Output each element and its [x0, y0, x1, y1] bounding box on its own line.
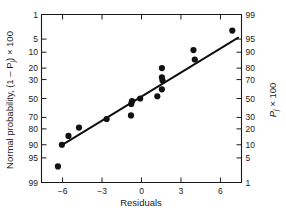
data-point [159, 65, 165, 71]
data-point [154, 93, 160, 99]
left-tick-label: 5 [33, 34, 38, 44]
left-tick-label: 50 [29, 94, 39, 104]
data-points [55, 27, 236, 169]
right-axis-tick-labels: 99959080705030201051 [246, 10, 256, 188]
right-tick-label: 30 [246, 112, 256, 122]
data-point [104, 116, 110, 122]
right-tick-label: 95 [246, 34, 256, 44]
data-point [137, 95, 143, 101]
left-tick-label: 80 [29, 124, 39, 134]
x-tick-label: 0 [139, 186, 144, 196]
data-point [159, 77, 165, 83]
fit-line [61, 38, 239, 146]
left-axis-tick-labels: 15102030507080909599 [29, 10, 39, 188]
data-point [59, 142, 65, 148]
data-point [129, 98, 135, 104]
right-tick-label: 50 [246, 94, 256, 104]
data-point [190, 47, 196, 53]
right-tick-label: 20 [246, 124, 256, 134]
data-point [229, 27, 235, 33]
left-tick-label: 99 [29, 178, 39, 188]
left-tick-label: 70 [29, 112, 39, 122]
left-tick-label: 10 [29, 47, 39, 57]
x-axis-title: Residuals [120, 197, 162, 208]
data-point [192, 56, 198, 62]
right-axis-ticks [237, 15, 242, 183]
right-tick-label: 70 [246, 75, 256, 85]
right-tick-label: 90 [246, 47, 256, 57]
data-point [65, 133, 71, 139]
x-tick-label: −6 [58, 186, 68, 196]
left-tick-label: 20 [29, 63, 39, 73]
x-tick-label: 3 [179, 186, 184, 196]
data-point [159, 86, 165, 92]
right-tick-label: 1 [246, 178, 251, 188]
x-axis-tick-labels: −6−3036 [58, 186, 223, 196]
right-tick-label: 10 [246, 140, 256, 150]
left-tick-label: 1 [33, 10, 38, 20]
left-axis-title: Normal probability, (1 – Pj) × 100 [4, 31, 17, 169]
x-tick-label: 6 [218, 186, 223, 196]
right-tick-label: 99 [246, 10, 256, 20]
right-tick-label: 80 [246, 63, 256, 73]
left-tick-label: 95 [29, 153, 39, 163]
x-tick-label: −3 [97, 186, 107, 196]
normal-probability-plot-figure: 15102030507080909599 9995908070503020105… [0, 0, 286, 213]
chart-canvas: 15102030507080909599 9995908070503020105… [0, 0, 286, 213]
svg-text:Pj × 100: Pj × 100 [267, 83, 280, 118]
data-point [128, 112, 134, 118]
left-tick-label: 90 [29, 140, 39, 150]
right-tick-label: 5 [246, 153, 251, 163]
left-axis-ticks [42, 15, 47, 183]
data-point [76, 125, 82, 131]
svg-text:Normal probability, (1 – Pj) ×: Normal probability, (1 – Pj) × 100 [4, 31, 17, 169]
right-axis-title: Pj × 100 [267, 83, 280, 118]
left-tick-label: 30 [29, 75, 39, 85]
data-point [55, 163, 61, 169]
